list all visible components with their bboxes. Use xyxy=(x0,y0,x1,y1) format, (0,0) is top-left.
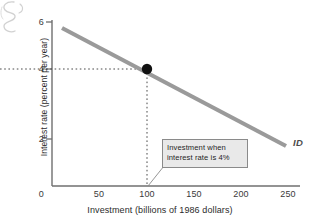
chart-screenshot: 6 4 2 0 50 100 150 200 250 Interest rate… xyxy=(0,0,320,220)
x-tick-label-250: 250 xyxy=(275,189,301,199)
y-axis-title: Interest rate (percent per year) xyxy=(39,12,49,182)
x-tick-label-50: 50 xyxy=(86,189,112,199)
y-tick-label-0: 0 xyxy=(28,189,44,199)
x-tick-label-150: 150 xyxy=(181,189,207,199)
equilibrium-point xyxy=(142,64,152,74)
x-tick-label-200: 200 xyxy=(228,189,254,199)
callout-line-2: interest rate is 4% xyxy=(167,153,243,163)
investment-callout-box: Investment when interest rate is 4% xyxy=(162,139,248,168)
demand-curve-label: ID xyxy=(293,137,303,148)
x-axis-title: Investment (billions of 1986 dollars) xyxy=(0,205,320,215)
investment-demand-curve xyxy=(62,28,286,146)
x-tick-label-100: 100 xyxy=(134,189,160,199)
callout-line-1: Investment when xyxy=(167,143,243,153)
callout-leader-line xyxy=(148,166,164,186)
